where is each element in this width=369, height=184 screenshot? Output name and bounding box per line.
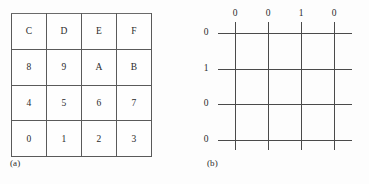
table-cell: 8 xyxy=(12,49,47,85)
table-cell: 0 xyxy=(12,121,47,157)
grid-row-label: 0 xyxy=(199,27,213,37)
grid-line-horizontal xyxy=(218,104,352,105)
table-cell: 3 xyxy=(117,121,152,157)
table-row: 4 5 6 7 xyxy=(12,85,152,121)
table-cell: 9 xyxy=(47,49,82,85)
grid-column-label: 0 xyxy=(327,8,341,18)
grid-line-horizontal xyxy=(218,69,352,70)
table-row: 8 9 A B xyxy=(12,49,152,85)
grid-column-label: 0 xyxy=(228,8,242,18)
table-row: C D E F xyxy=(12,14,152,50)
panel-a: C D E F 8 9 A B 4 5 6 7 0 1 2 3 xyxy=(0,0,185,184)
table-cell: A xyxy=(82,49,117,85)
table-cell: 1 xyxy=(47,121,82,157)
grid-line-horizontal xyxy=(218,140,352,141)
table-cell: D xyxy=(47,14,82,50)
table-cell: C xyxy=(12,14,47,50)
grid-row-label: 1 xyxy=(199,63,213,73)
table-cell: B xyxy=(117,49,152,85)
table-cell: E xyxy=(82,14,117,50)
grid-row-label: 0 xyxy=(199,98,213,108)
table-cell: 7 xyxy=(117,85,152,121)
table-cell: 5 xyxy=(47,85,82,121)
panel-a-caption: (a) xyxy=(10,158,20,168)
table-cell: 4 xyxy=(12,85,47,121)
grid-line-vertical xyxy=(301,22,302,150)
panel-b-caption: (b) xyxy=(207,158,218,168)
crossbar-grid: 0 0 1 0 0 1 0 0 xyxy=(185,0,369,184)
grid-row-label: 0 xyxy=(199,134,213,144)
grid-line-vertical xyxy=(268,22,269,150)
table-row: 0 1 2 3 xyxy=(12,121,152,157)
table-cell: 2 xyxy=(82,121,117,157)
hex-digit-table: C D E F 8 9 A B 4 5 6 7 0 1 2 3 xyxy=(11,13,152,157)
grid-column-label: 1 xyxy=(294,8,308,18)
panel-b: 0 0 1 0 0 1 0 0 (b) xyxy=(185,0,369,184)
grid-line-vertical xyxy=(235,22,236,150)
grid-line-vertical xyxy=(334,22,335,150)
grid-line-horizontal xyxy=(218,33,352,34)
grid-column-label: 0 xyxy=(261,8,275,18)
table-cell: 6 xyxy=(82,85,117,121)
table-cell: F xyxy=(117,14,152,50)
